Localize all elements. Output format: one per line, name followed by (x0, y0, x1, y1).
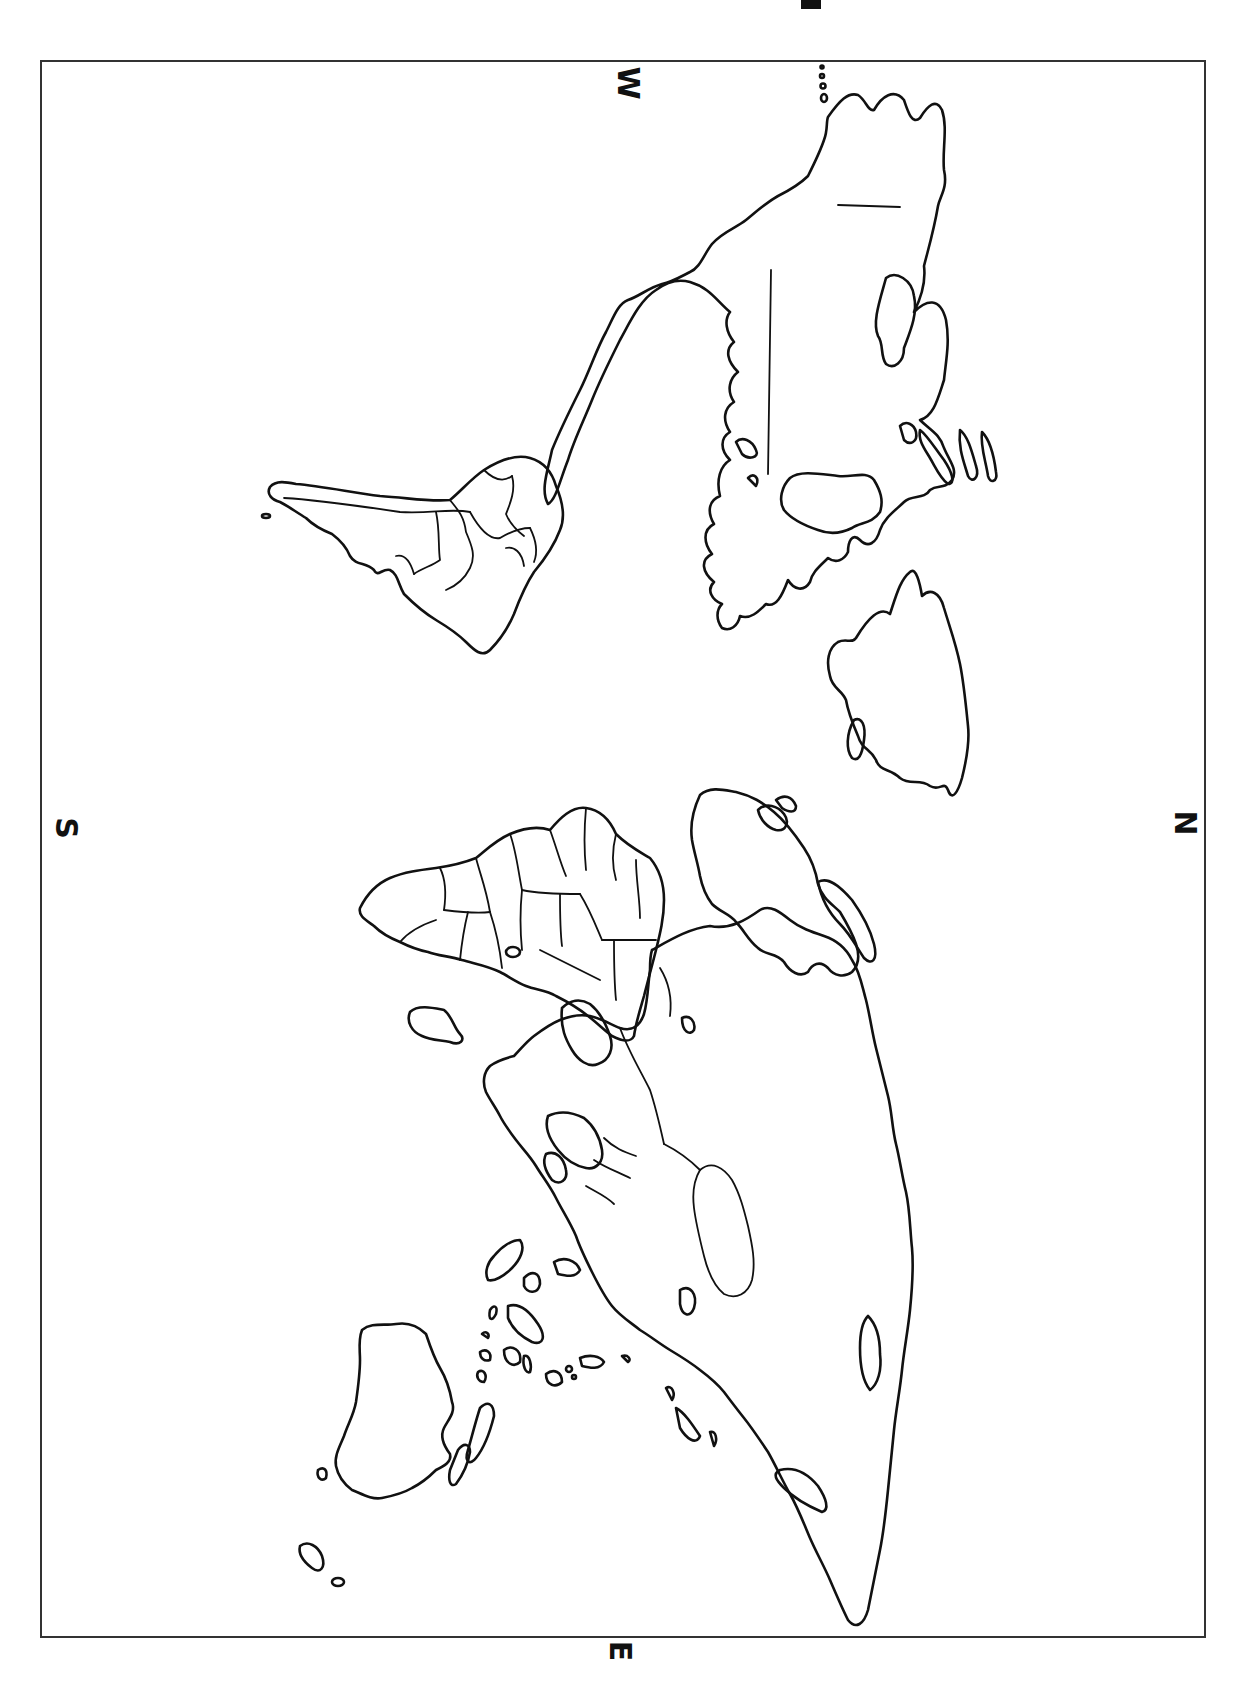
small-islands-southwest (300, 1544, 344, 1586)
africa (360, 808, 695, 1065)
australia (318, 1323, 470, 1498)
south-america (262, 457, 563, 654)
world-outline-map (0, 0, 1252, 1703)
north-america (545, 66, 997, 630)
asia (484, 908, 913, 1625)
greenland (828, 571, 968, 796)
europe (691, 789, 875, 975)
